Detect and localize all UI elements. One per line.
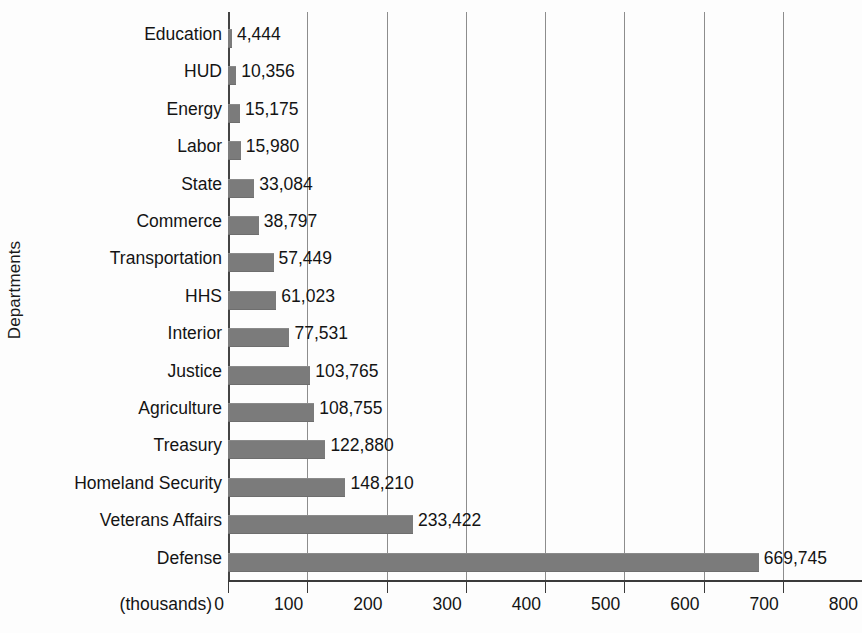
- category-label: Veterans Affairs: [100, 512, 222, 530]
- bar-row[interactable]: 10,356: [228, 57, 862, 94]
- bar-row[interactable]: 122,880: [228, 431, 862, 468]
- bar-value-label: 57,449: [279, 250, 333, 268]
- bar-row[interactable]: 38,797: [228, 207, 862, 244]
- category-label: Commerce: [136, 213, 222, 231]
- x-axis-tick-mark: [307, 582, 308, 593]
- category-label: Labor: [177, 138, 222, 156]
- bar-value-label: 148,210: [350, 475, 413, 493]
- category-label: Energy: [167, 101, 222, 119]
- bar-row[interactable]: 148,210: [228, 469, 862, 506]
- bar[interactable]: [228, 403, 314, 422]
- category-label: Treasury: [154, 437, 222, 455]
- bar[interactable]: [228, 366, 310, 385]
- x-axis-tick-label: 300: [420, 596, 462, 614]
- x-axis-tick-label: 200: [341, 596, 383, 614]
- bar[interactable]: [228, 66, 236, 85]
- bar-row[interactable]: 15,980: [228, 132, 862, 169]
- bar[interactable]: [228, 515, 413, 534]
- category-label: HUD: [184, 63, 222, 81]
- x-axis-tick-mark: [624, 582, 625, 593]
- category-label: Defense: [157, 550, 222, 568]
- bar-row[interactable]: 61,023: [228, 282, 862, 319]
- bar[interactable]: [228, 478, 345, 497]
- plot-area: 4,44410,35615,17515,98033,08438,79757,44…: [228, 12, 862, 580]
- bar[interactable]: [228, 141, 241, 160]
- bar-value-label: 15,980: [246, 138, 300, 156]
- bar[interactable]: [228, 440, 325, 459]
- category-label: State: [181, 176, 222, 194]
- bar-chart: Departments EducationHUDEnergyLaborState…: [0, 0, 862, 633]
- x-axis-tick-label: 400: [499, 596, 541, 614]
- bar[interactable]: [228, 104, 240, 123]
- bar-row[interactable]: 57,449: [228, 244, 862, 281]
- bar-row[interactable]: 669,745: [228, 544, 862, 581]
- category-label: Transportation: [110, 250, 222, 268]
- category-label: Agriculture: [138, 400, 222, 418]
- category-label: Education: [144, 26, 222, 44]
- x-axis-tick-mark: [228, 582, 229, 593]
- bar-value-label: 233,422: [418, 512, 481, 530]
- bar[interactable]: [228, 253, 274, 272]
- category-label: Homeland Security: [74, 475, 222, 493]
- x-axis-tick-mark: [466, 582, 467, 593]
- bar[interactable]: [228, 29, 232, 48]
- bar-row[interactable]: 77,531: [228, 319, 862, 356]
- bar-value-label: 10,356: [241, 63, 295, 81]
- bar-value-label: 4,444: [237, 26, 281, 44]
- x-axis-tick-label: 600: [658, 596, 700, 614]
- bar-row[interactable]: 15,175: [228, 95, 862, 132]
- bar-value-label: 61,023: [281, 288, 335, 306]
- x-axis-tick-label: 100: [261, 596, 303, 614]
- bar[interactable]: [228, 179, 254, 198]
- category-label: Justice: [168, 363, 222, 381]
- bar[interactable]: [228, 553, 759, 572]
- x-axis-tick-label: 500: [578, 596, 620, 614]
- category-label: Interior: [168, 325, 222, 343]
- x-axis-tick-label: 700: [737, 596, 779, 614]
- bar[interactable]: [228, 328, 289, 347]
- bar-value-label: 122,880: [330, 437, 393, 455]
- category-label: HHS: [185, 288, 222, 306]
- bar-value-label: 33,084: [259, 176, 313, 194]
- category-axis-labels: EducationHUDEnergyLaborStateCommerceTran…: [26, 12, 226, 580]
- bar-value-label: 15,175: [245, 101, 299, 119]
- bar-row[interactable]: 4,444: [228, 20, 862, 57]
- bar-value-label: 103,765: [315, 363, 378, 381]
- x-axis-tick-mark: [704, 582, 705, 593]
- x-axis-tick-label: 0: [182, 596, 224, 614]
- bar[interactable]: [228, 216, 259, 235]
- x-axis-tick-mark: [783, 582, 784, 593]
- bar-row[interactable]: 33,084: [228, 170, 862, 207]
- y-axis-title-text: Departments: [5, 241, 25, 339]
- bar-row[interactable]: 103,765: [228, 357, 862, 394]
- x-axis-tick-mark: [545, 582, 546, 593]
- bar-value-label: 77,531: [294, 325, 348, 343]
- x-axis-tick-mark: [387, 582, 388, 593]
- bar-row[interactable]: 108,755: [228, 394, 862, 431]
- x-axis-tick-label: 800: [816, 596, 858, 614]
- bar-value-label: 669,745: [764, 550, 827, 568]
- bar-row[interactable]: 233,422: [228, 506, 862, 543]
- bar-value-label: 38,797: [264, 213, 318, 231]
- bar[interactable]: [228, 291, 276, 310]
- bar-value-label: 108,755: [319, 400, 382, 418]
